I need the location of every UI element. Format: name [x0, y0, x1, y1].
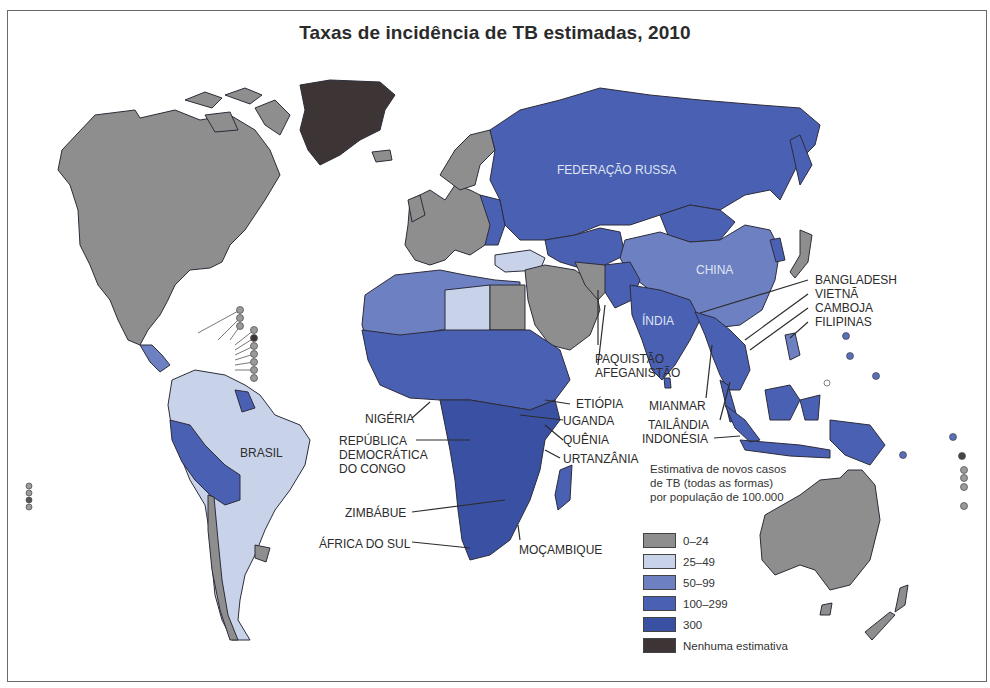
- region-indonesia: [725, 385, 885, 465]
- label-china: CHINA: [696, 263, 733, 277]
- legend-item-300: 300: [643, 615, 788, 634]
- legend-item-50-99: 50–99: [643, 573, 788, 592]
- label-camboja: CAMBOJA: [815, 301, 873, 315]
- legend-swatch-300: [643, 617, 676, 632]
- label-uganda: UGANDA: [563, 414, 614, 428]
- label-africa-do-sul: ÁFRICA DO SUL: [319, 537, 410, 551]
- region-philippines: [785, 333, 800, 360]
- label-rdc-line3: DO CONGO: [339, 462, 428, 476]
- legend-label: 0–24: [683, 535, 709, 547]
- label-russia: FEDERAÇÃO RUSSA: [557, 163, 676, 177]
- region-japan: [790, 230, 812, 278]
- legend-swatch-none: [643, 638, 676, 653]
- legend-item-25-49: 25–49: [643, 552, 788, 571]
- legend-label: 50–99: [683, 577, 715, 589]
- region-north-america: [58, 110, 280, 345]
- label-rdc: REPÚBLICA DEMOCRÁTICA DO CONGO: [339, 434, 428, 476]
- label-mocambique: MOÇAMBIQUE: [519, 543, 602, 557]
- legend-item-none: Nenhuma estimativa: [643, 636, 788, 655]
- legend-note-line1: Estimativa de novos casos: [650, 462, 786, 476]
- legend-label: 100–299: [683, 598, 728, 610]
- region-sahel: [362, 330, 570, 410]
- legend-label: 300: [683, 619, 702, 631]
- label-brasil: BRASIL: [240, 446, 283, 460]
- label-tailandia: TAILÂNDIA: [648, 418, 709, 432]
- legend-note-line2: de TB (todas as formas): [650, 476, 786, 490]
- label-india: ÍNDIA: [642, 314, 674, 328]
- legend-note-line3: por população de 100.000: [650, 490, 786, 504]
- label-nigeria: NIGÉRIA: [365, 412, 414, 426]
- legend-swatch-0-24: [643, 533, 676, 548]
- legend: 0–24 25–49 50–99 100–299 300 Nenhuma est…: [643, 531, 788, 657]
- region-iceland: [372, 150, 392, 162]
- label-mianmar: MIANMAR: [649, 399, 706, 413]
- label-afeganistao: AFEGANISTÃO: [595, 366, 680, 380]
- region-uruguay: [255, 545, 270, 562]
- legend-swatch-100-299: [643, 596, 676, 611]
- region-new-zealand: [865, 585, 908, 640]
- legend-item-100-299: 100–299: [643, 594, 788, 613]
- label-zimbabue: ZIMBÁBUE: [345, 506, 406, 520]
- label-indonesia: INDONÉSIA: [642, 432, 708, 446]
- legend-label: Nenhuma estimativa: [683, 640, 788, 652]
- label-filipinas: FILIPINAS: [815, 315, 872, 329]
- region-central-america: [140, 345, 170, 372]
- label-quenia: QUÊNIA: [563, 433, 609, 447]
- label-rdc-line1: REPÚBLICA: [339, 434, 428, 448]
- world-map: [0, 0, 990, 688]
- region-madagascar: [555, 465, 572, 510]
- label-etiopia: ETIÓPIA: [576, 397, 623, 411]
- label-paquistao: PAQUISTÃO: [595, 352, 664, 366]
- region-libya: [445, 285, 490, 335]
- legend-swatch-50-99: [643, 575, 676, 590]
- legend-item-0-24: 0–24: [643, 531, 788, 550]
- region-scandinavia: [440, 130, 495, 190]
- region-central-southern-africa: [440, 400, 560, 560]
- legend-note: Estimativa de novos casos de TB (todas a…: [650, 462, 786, 504]
- label-tanzania: URTANZÂNIA: [563, 452, 639, 466]
- legend-swatch-25-49: [643, 554, 676, 569]
- region-south-america: [168, 370, 310, 640]
- region-egypt: [490, 285, 525, 330]
- label-vietna: VIETNÃ: [815, 287, 858, 301]
- label-bangladesh: BANGLADESH: [815, 273, 897, 287]
- label-rdc-line2: DEMOCRÁTICA: [339, 448, 428, 462]
- legend-label: 25–49: [683, 556, 715, 568]
- region-tasmania: [820, 603, 832, 615]
